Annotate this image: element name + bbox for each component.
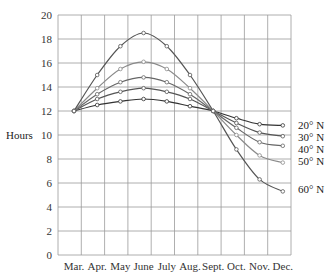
x-tick-label: Sept. (202, 260, 225, 272)
data-point (95, 103, 99, 107)
x-tick-label: Apr. (88, 260, 108, 272)
data-point (142, 86, 146, 90)
legend-label: 50° N (298, 155, 324, 167)
series-30n (72, 86, 284, 138)
data-point (165, 44, 169, 48)
data-point (142, 31, 146, 35)
data-point (119, 67, 123, 71)
series-line (74, 62, 283, 163)
data-point (142, 97, 146, 101)
data-point (235, 148, 239, 152)
legend-label: 60° N (298, 183, 324, 195)
data-point (119, 100, 123, 104)
data-point (235, 116, 239, 120)
x-tick-label: Oct. (227, 260, 246, 272)
legend-label: 20° N (298, 119, 324, 131)
y-axis-label: Hours (6, 129, 33, 141)
data-point (281, 144, 285, 148)
series-line (74, 77, 283, 145)
series-50n (72, 60, 284, 164)
data-point (258, 178, 262, 182)
series-40n (72, 76, 284, 148)
data-point (235, 133, 239, 137)
data-point (281, 124, 285, 128)
series-line (74, 99, 283, 125)
x-tick-label: Aug. (179, 260, 201, 272)
legend-label: 40° N (298, 143, 324, 155)
x-tick-label: July (158, 260, 177, 272)
y-tick-label: 0 (47, 249, 53, 261)
data-point (119, 44, 123, 48)
data-point (188, 92, 192, 96)
series-line (74, 88, 283, 136)
data-point (258, 131, 262, 135)
series-60n (72, 31, 284, 193)
data-point (119, 90, 123, 94)
x-tick-label: Nov. (249, 260, 270, 272)
grid (58, 15, 291, 255)
y-tick-label: 10 (41, 129, 53, 141)
legend: 20° N30° N40° N50° N60° N (298, 119, 324, 195)
y-tick-label: 4 (47, 201, 53, 213)
y-axis-ticks: 02468101214161820 (41, 9, 53, 261)
data-point (188, 97, 192, 101)
data-point (95, 86, 99, 90)
data-point (165, 100, 169, 104)
series-line (74, 33, 283, 191)
data-point (165, 67, 169, 71)
data-point (281, 190, 285, 194)
y-tick-label: 6 (47, 177, 53, 189)
data-point (211, 109, 215, 113)
x-axis-ticks: Mar.Apr.MayJuneJulyAug.Sept.Oct.Nov.Dec. (64, 260, 294, 272)
daylight-hours-chart: 02468101214161820 Mar.Apr.MayJuneJulyAug… (0, 0, 334, 277)
data-point (142, 76, 146, 80)
data-point (165, 90, 169, 94)
x-tick-label: Dec. (273, 260, 294, 272)
y-tick-label: 20 (41, 9, 53, 21)
data-point (95, 97, 99, 101)
data-point (281, 134, 285, 138)
data-point (281, 161, 285, 165)
data-point (188, 73, 192, 77)
series-lines (72, 31, 284, 193)
data-point (119, 80, 123, 84)
data-point (142, 60, 146, 64)
data-point (258, 140, 262, 144)
y-tick-label: 12 (41, 105, 52, 117)
data-point (95, 92, 99, 96)
series-20n (72, 97, 284, 127)
data-point (188, 86, 192, 90)
data-point (235, 121, 239, 125)
data-point (95, 73, 99, 77)
y-tick-label: 2 (47, 225, 53, 237)
data-point (258, 154, 262, 158)
data-point (258, 122, 262, 126)
y-tick-label: 8 (47, 153, 53, 165)
data-point (165, 80, 169, 84)
x-tick-label: Mar. (64, 260, 85, 272)
data-point (235, 126, 239, 130)
x-tick-label: May (110, 260, 131, 272)
x-tick-label: June (134, 260, 154, 272)
y-tick-label: 18 (41, 33, 53, 45)
y-tick-label: 16 (41, 57, 53, 69)
data-point (72, 109, 76, 113)
y-tick-label: 14 (41, 81, 53, 93)
data-point (188, 104, 192, 108)
legend-label: 30° N (298, 131, 324, 143)
